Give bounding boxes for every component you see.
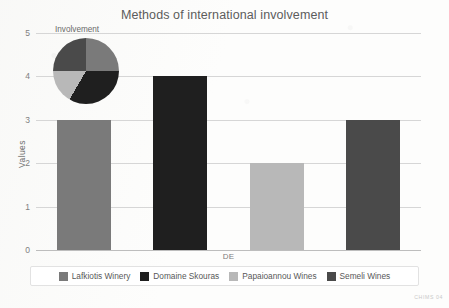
pie-disc [53, 38, 119, 104]
y-tick-label: 5 [25, 28, 30, 38]
y-tick-label: 3 [25, 115, 30, 125]
x-axis-category-label: DE [36, 252, 421, 261]
gridline-0: 0 [36, 250, 421, 251]
legend-label: Lafkiotis Winery [72, 271, 131, 281]
legend-entry[interactable]: Semeli Wines [327, 271, 391, 281]
bar [57, 120, 111, 250]
y-tick-label: 4 [25, 71, 30, 81]
legend-label: Domaine Skouras [153, 271, 219, 281]
y-tick-label: 1 [25, 202, 30, 212]
legend-swatch-icon [327, 272, 336, 281]
bar [153, 76, 207, 250]
legend-swatch-icon [59, 272, 68, 281]
pie-inset-chart [53, 38, 119, 104]
pie-inset-title: Involvement [55, 25, 99, 34]
chart-title: Methods of international involvement [0, 8, 449, 22]
legend-entry[interactable]: Domaine Skouras [140, 271, 219, 281]
legend-entry[interactable]: Lafkiotis Winery [59, 271, 131, 281]
y-tick-label: 2 [25, 158, 30, 168]
legend-entry[interactable]: Papaioannou Wines [229, 271, 316, 281]
bar-chart-figure: Methods of international involvement Val… [0, 0, 449, 308]
legend-swatch-icon [229, 272, 238, 281]
bar [346, 120, 400, 250]
chart-legend: Lafkiotis WineryDomaine SkourasPapaioann… [30, 266, 419, 286]
legend-label: Papaioannou Wines [242, 271, 316, 281]
bar [250, 163, 304, 250]
watermark-text: CHIMS 04 [414, 294, 443, 300]
legend-label: Semeli Wines [340, 271, 391, 281]
y-tick-label: 0 [25, 245, 30, 255]
legend-swatch-icon [140, 272, 149, 281]
